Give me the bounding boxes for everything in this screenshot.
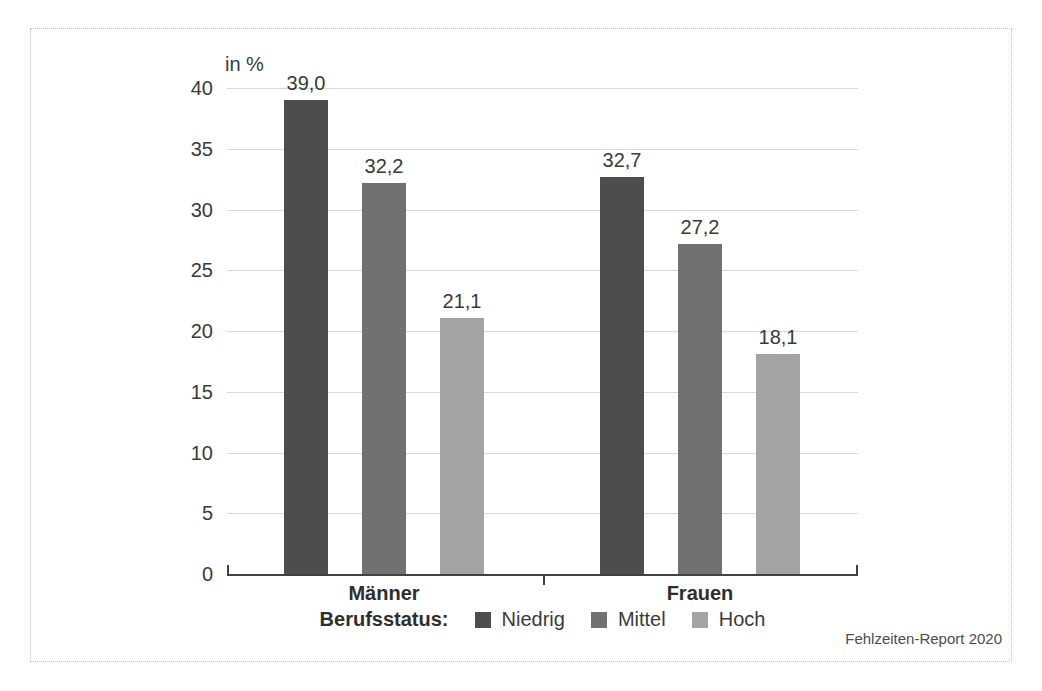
bar-frauen-hoch [756,354,800,574]
legend-label-niedrig: Niedrig [502,608,565,631]
y-tick-label-30: 30 [159,199,213,221]
axis-end-tick-right [856,565,858,574]
bar-männer-hoch [440,318,484,574]
legend-label-hoch: Hoch [719,608,766,631]
bar-value-männer-mittel: 32,2 [344,155,424,178]
legend-item-hoch: Hoch [692,608,766,631]
legend-item-mittel: Mittel [591,608,666,631]
y-tick-label-40: 40 [159,77,213,99]
y-tick-label-10: 10 [159,442,213,464]
bar-value-männer-niedrig: 39,0 [266,72,346,95]
legend: Berufsstatus: NiedrigMittelHoch [227,608,858,631]
legend-label-mittel: Mittel [618,608,666,631]
source-note: Fehlzeiten-Report 2020 [845,630,1002,647]
legend-item-niedrig: Niedrig [475,608,565,631]
y-axis-unit-label: in % [225,53,264,76]
y-tick-label-35: 35 [159,138,213,160]
y-tick-label-5: 5 [159,502,213,524]
bar-frauen-mittel [678,244,722,574]
legend-swatch-niedrig [475,612,491,628]
category-label-frauen: Frauen [620,582,780,605]
y-tick-label-25: 25 [159,259,213,281]
bar-männer-mittel [362,183,406,574]
y-tick-label-0: 0 [159,563,213,585]
bar-frauen-niedrig [600,177,644,574]
bar-value-männer-hoch: 21,1 [422,290,502,313]
bar-value-frauen-mittel: 27,2 [660,216,740,239]
bar-value-frauen-hoch: 18,1 [738,326,818,349]
legend-swatch-hoch [692,612,708,628]
scanned-figure-page: in % 0510152025303540 39,032,221,132,727… [0,0,1042,691]
bar-value-frauen-niedrig: 32,7 [582,149,662,172]
category-label-männer: Männer [304,582,464,605]
legend-title: Berufsstatus: [320,608,449,631]
grouped-bar-chart: in % 0510152025303540 39,032,221,132,727… [0,0,1042,691]
y-tick-label-20: 20 [159,320,213,342]
bar-männer-niedrig [284,100,328,574]
y-tick-label-15: 15 [159,381,213,403]
category-divider-tick [543,576,545,585]
legend-swatch-mittel [591,612,607,628]
axis-end-tick-left [227,565,229,574]
